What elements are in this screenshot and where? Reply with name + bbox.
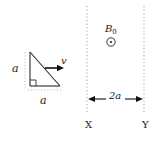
label-magnetic-field-subscript: 0 — [112, 28, 116, 36]
figure-canvas — [0, 0, 164, 142]
label-velocity: v — [61, 56, 67, 66]
physics-figure: a a v B0 2a X Y — [0, 0, 164, 142]
dimension-arrow-right-icon — [125, 96, 143, 102]
label-side-a-left: a — [12, 63, 19, 74]
label-boundary-x: X — [85, 120, 92, 130]
circle-dot-icon — [107, 38, 115, 46]
right-angle-marker-icon — [30, 80, 36, 86]
label-boundary-y: Y — [142, 120, 149, 130]
label-magnetic-field: B0 — [105, 24, 117, 34]
label-side-a-bottom: a — [40, 95, 47, 106]
label-gap-width: 2a — [109, 91, 121, 101]
dimension-arrow-left-icon — [88, 96, 106, 102]
triangle-hypotenuse — [30, 52, 60, 86]
